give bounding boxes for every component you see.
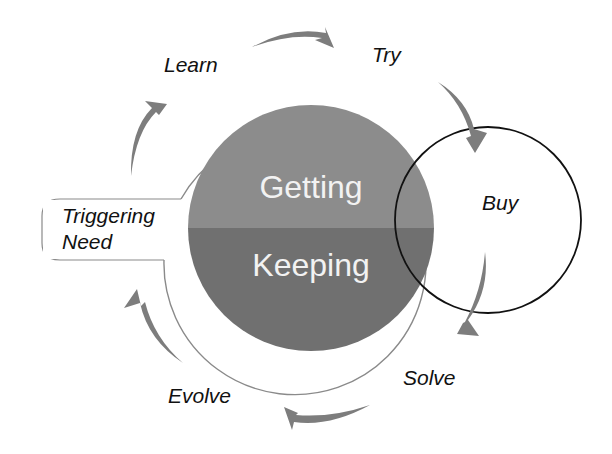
entry-label-line1: Triggering — [62, 204, 155, 227]
arrow-icon-to-learn — [131, 101, 167, 176]
stage-label-try: Try — [372, 43, 402, 66]
arrow-icon-to-evolve — [284, 405, 370, 430]
stage-label-evolve: Evolve — [168, 384, 231, 407]
lifecycle-diagram: Getting Keeping Triggering Need Learn Tr… — [0, 0, 612, 454]
stage-label-learn: Learn — [164, 53, 218, 76]
stage-label-solve: Solve — [403, 366, 456, 389]
arrow-icon-to-buy — [438, 82, 487, 153]
core-label-keeping: Keeping — [252, 247, 369, 283]
arrow-icon-to-try — [252, 27, 334, 48]
core-label-getting: Getting — [259, 169, 362, 205]
core-disk: Getting Keeping — [188, 105, 434, 351]
arrow-icon-to-solve — [457, 252, 486, 336]
stage-label-buy: Buy — [482, 191, 520, 214]
arrow-icon-to-triggering-need — [124, 289, 183, 363]
entry-label-line2: Need — [62, 230, 114, 253]
